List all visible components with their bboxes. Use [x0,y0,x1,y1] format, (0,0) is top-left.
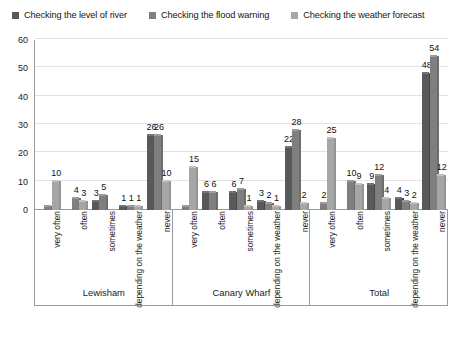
bar-side-face [59,181,61,210]
x-axis-category-label: very often [53,211,61,248]
bar-top-face [209,191,216,193]
bar [134,205,141,210]
y-axis-tick: 20 [18,149,28,158]
bar-value-label: 3 [404,189,409,198]
bar-value-label: 6 [211,180,216,189]
bar-top-face [272,205,279,207]
bar-side-face [106,195,108,210]
bar-body [382,199,389,210]
bar [285,146,292,210]
bar-side-face [216,192,218,210]
bar-top-face [44,205,51,207]
x-axis-group-labels: LewishamCanary WharfTotal [35,288,448,304]
gridline [35,38,448,39]
bar-cluster: 109 [338,40,366,210]
bar-body [402,202,409,211]
x-axis-category-label: never [301,211,309,232]
bar [422,72,429,210]
group-separator [34,210,35,306]
bar-side-face [444,175,446,210]
bar [154,134,161,210]
bar [257,200,264,211]
bar-side-face [169,181,171,210]
y-axis-tick: 30 [18,121,28,130]
bar-side-face [141,206,143,210]
bar-body [265,204,272,210]
bar-top-face [265,202,272,204]
bar-top-face [422,72,429,74]
bar [44,205,51,210]
bar-cluster: 43 [63,40,91,210]
bar-value-label: 6 [204,180,209,189]
bar-body [44,207,51,210]
bar-cluster: 111 [118,40,146,210]
bar-value-label: 54 [429,44,439,53]
bar-cluster: 9124 [365,40,393,210]
bar [410,202,417,210]
legend-item-level-of-river: Checking the level of river [12,11,127,20]
bar [355,183,362,211]
bar-top-face [300,202,307,204]
bar-body [367,185,374,211]
bar [147,134,154,210]
bar-value-label: 1 [246,194,251,203]
bar-value-label: 7 [239,177,244,186]
bar-top-face [355,183,362,185]
y-axis-tick: 0 [23,206,28,215]
bar-value-label: 1 [274,194,279,203]
bar-body [422,74,429,210]
legend-label: Checking the weather forecast [303,11,424,20]
bar [52,180,59,210]
bar-group-lewisham: 104335111262610 [35,40,173,210]
bar-body [237,190,244,210]
bar [244,205,251,210]
bar-body [79,202,86,211]
bar-value-label: 6 [231,180,236,189]
bar-value-label: 3 [81,189,86,198]
bar [437,174,444,210]
bar-top-face [437,174,444,176]
bar-top-face [229,191,236,193]
bar-top-face [99,194,106,196]
bar-top-face [92,200,99,202]
bar-value-label: 12 [374,163,384,172]
group-separator [309,210,310,306]
bar-top-face [285,146,292,148]
bar [375,174,382,210]
legend-label: Checking the level of river [24,11,127,20]
bar-body [347,182,354,210]
bar-body [292,131,299,210]
y-axis-tick: 10 [18,177,28,186]
bar-side-face [279,206,281,210]
bar-value-label: 3 [259,189,264,198]
bar-value-label: 3 [94,189,99,198]
x-axis-category-label: often [356,211,364,230]
bar-body [355,185,362,211]
bar-cluster: 432 [393,40,421,210]
bar-value-label: 1 [136,194,141,203]
bar-value-label: 10 [51,169,61,178]
bar-top-face [367,183,374,185]
bar-cluster: 22282 [283,40,311,210]
bar-top-face [292,129,299,131]
bar-side-face [307,203,309,210]
bar-value-label: 2 [322,191,327,200]
bar [237,188,244,210]
bar-top-face [395,197,402,199]
x-axis-category-label: often [80,211,88,230]
bar-value-label: 12 [437,163,447,172]
bar-body [99,196,106,210]
bar-body [430,57,437,210]
bar-top-face [52,180,59,182]
bar [402,200,409,211]
bar [119,205,126,210]
x-axis-group-label: Canary Wharf [213,288,271,297]
bar-top-face [347,180,354,182]
x-axis-group-label: Total [369,288,389,297]
bar-body [272,207,279,210]
x-axis-category-label: sometimes [246,211,254,252]
bar-body [244,207,251,210]
bar [395,197,402,210]
x-axis-category-label: often [218,211,226,230]
bar-top-face [72,197,79,199]
